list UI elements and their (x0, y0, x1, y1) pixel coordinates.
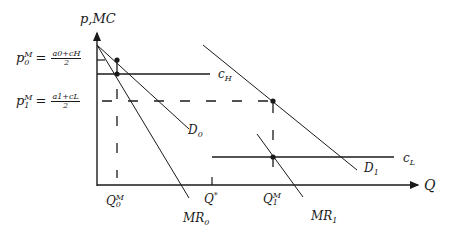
demand-curve-d0 (97, 45, 189, 129)
ch-label: cH (218, 68, 232, 83)
mr0-label: MR0 (183, 212, 209, 227)
marginal-revenue-mr0 (97, 45, 189, 198)
point-p1-on-d1 (270, 98, 275, 103)
mr1-label: MR1 (311, 210, 337, 225)
y-axis-label: p,MC (80, 12, 116, 25)
p1-price-label: pM1=a1+cL2 (16, 93, 80, 110)
point-cl-on-mr1 (270, 154, 275, 159)
x-axis-label: Q (424, 178, 435, 192)
monopoly-pricing-diagram (0, 0, 454, 234)
demand-curve-d1 (203, 45, 357, 170)
qstar-label: Q* (204, 192, 218, 205)
d0-label: D0 (188, 124, 203, 139)
p0-price-label: pM0=a0+cH2 (16, 50, 81, 67)
marginal-revenue-mr1 (257, 134, 303, 197)
q1m-label: QM1 (263, 192, 281, 206)
cl-label: cL (403, 152, 415, 167)
point-ch-on-mr0 (114, 71, 119, 76)
d1-label: D1 (364, 162, 379, 177)
q0m-label: QM0 (106, 194, 124, 208)
point-p0-on-d0 (114, 57, 119, 62)
